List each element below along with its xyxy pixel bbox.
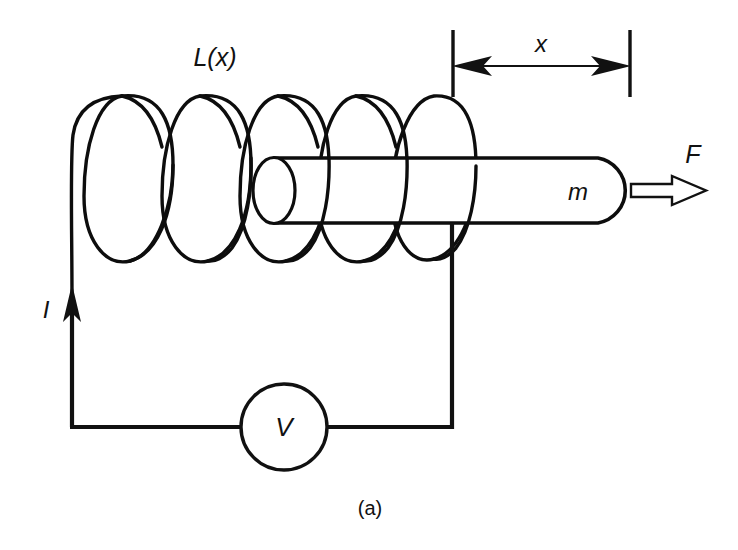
inductance-label: L(x): [193, 43, 236, 71]
force-label: F: [685, 140, 702, 168]
plunger-rod-end-cap: [253, 158, 295, 224]
figure-root: L(x) x m F I V (a): [0, 0, 738, 550]
voltage-label: V: [275, 412, 295, 442]
coil-front-arc-1: [130, 165, 173, 261]
force-arrow-group: [631, 176, 706, 205]
current-label: I: [43, 296, 50, 323]
coil-turn-1: [84, 96, 173, 262]
mass-label: m: [568, 178, 588, 205]
force-arrow-shape: [631, 176, 706, 205]
displacement-label: x: [534, 30, 548, 57]
solenoid-actuator-diagram: L(x) x m F I V (a): [0, 0, 738, 550]
coil-left-lead: [71, 96, 122, 300]
figure-caption: (a): [358, 497, 382, 519]
